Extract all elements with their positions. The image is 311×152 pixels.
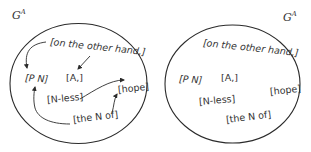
- left-panel-title: GA: [12, 10, 26, 21]
- left-title-superscript: A: [21, 8, 26, 16]
- right-node-p-n: [P N]: [179, 74, 203, 85]
- diagram-canvas: GA [on the other hand,] [P N] [A,] [N-le…: [0, 0, 311, 152]
- right-panel-title: GA: [283, 12, 297, 23]
- left-title-letter: G: [12, 9, 21, 22]
- left-node-p-n: [P N]: [25, 73, 49, 84]
- right-title-letter: G: [283, 11, 292, 24]
- right-title-superscript: A: [292, 10, 297, 18]
- arrow-otherhand-to-pn: [26, 42, 46, 68]
- arrow-otherhand-to-a: [78, 56, 90, 69]
- left-node-a: [A,]: [66, 73, 83, 83]
- right-node-a: [A,]: [221, 73, 238, 83]
